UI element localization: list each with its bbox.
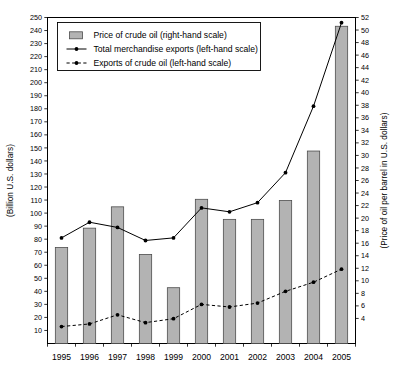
x-axis-tick-label: 1997	[108, 352, 127, 362]
bar	[223, 219, 235, 343]
data-point-marker	[172, 236, 176, 240]
data-point-marker	[312, 280, 316, 284]
y2-axis-tick-label: 52	[361, 13, 369, 22]
oil-price-exports-chart: 1020304050607080901001101201301401501601…	[0, 0, 397, 372]
y-axis-tick-label: 220	[30, 52, 42, 61]
bar	[55, 248, 67, 344]
y-axis-tick-label: 30	[34, 300, 42, 309]
chart-canvas: 1020304050607080901001101201301401501601…	[0, 0, 397, 372]
y2-axis-tick-label: 50	[361, 26, 369, 35]
legend-item-label: Exports of crude oil (left-hand scale)	[94, 58, 232, 68]
y-axis-tick-label: 130	[30, 170, 42, 179]
legend-solid-marker-icon	[75, 47, 79, 51]
y-axis-tick-label: 100	[30, 209, 42, 218]
y2-axis-tick-label: 18	[361, 226, 369, 235]
bar	[335, 26, 347, 343]
y-axis-tick-label: 50	[34, 274, 42, 283]
y-axis-tick-label: 250	[30, 13, 42, 22]
x-axis-tick-label: 2002	[248, 352, 267, 362]
bar	[167, 288, 179, 344]
data-point-marker	[200, 206, 204, 210]
data-point-marker	[116, 313, 120, 317]
x-axis-tick-label: 2000	[192, 352, 211, 362]
data-point-marker	[284, 289, 288, 293]
y2-axis-tick-label: 6	[361, 301, 365, 310]
bar	[195, 199, 207, 343]
data-point-marker	[228, 305, 232, 309]
y2-axis-tick-label: 44	[361, 63, 369, 72]
x-axis-tick-label: 1995	[52, 352, 71, 362]
y-axis-tick-label: 80	[34, 235, 42, 244]
y2-axis-tick-label: 16	[361, 239, 369, 248]
data-point-marker	[200, 302, 204, 306]
y2-axis-tick-label: 38	[361, 101, 369, 110]
y-axis-tick-label: 210	[30, 65, 42, 74]
y2-axis-tick-label: 46	[361, 51, 369, 60]
y2-axis-tick-label: 32	[361, 138, 369, 147]
x-axis-tick-label: 1996	[80, 352, 99, 362]
data-point-marker	[88, 220, 92, 224]
data-point-marker	[172, 317, 176, 321]
x-axis-tick-label: 1999	[164, 352, 183, 362]
y2-axis-tick-label: 26	[361, 176, 369, 185]
bar	[307, 151, 319, 343]
data-point-marker	[144, 321, 148, 325]
y2-axis-tick-label: 14	[361, 251, 369, 260]
bar	[279, 201, 291, 344]
y-axis-tick-label: 90	[34, 222, 42, 231]
y2-axis-tick-label: 48	[361, 38, 369, 47]
y2-axis-tick-label: 4	[361, 314, 365, 323]
bar	[83, 228, 95, 343]
x-axis-tick-label: 2005	[332, 352, 351, 362]
y-axis-tick-label: 20	[34, 313, 42, 322]
y2-axis-tick-label: 20	[361, 214, 369, 223]
data-point-marker	[284, 171, 288, 175]
y2-axis-tick-label: 34	[361, 126, 369, 135]
y2-axis-title: (Price of oil per barrel in U.S. dollars…	[379, 112, 389, 248]
y-axis-tick-label: 70	[34, 248, 42, 257]
data-point-marker	[256, 301, 260, 305]
y2-axis-tick-label: 12	[361, 264, 369, 273]
bar	[139, 254, 151, 343]
y2-axis-tick-label: 8	[361, 289, 365, 298]
y-axis-tick-label: 240	[30, 26, 42, 35]
data-point-marker	[60, 236, 64, 240]
y-axis-tick-label: 200	[30, 78, 42, 87]
y-axis-tick-label: 230	[30, 39, 42, 48]
x-axis-tick-label: 2003	[276, 352, 295, 362]
y-axis-tick-label: 180	[30, 104, 42, 113]
y-axis-tick-label: 60	[34, 261, 42, 270]
legend-bar-swatch-icon	[70, 32, 83, 39]
data-point-marker	[340, 267, 344, 271]
y2-axis-tick-label: 24	[361, 189, 369, 198]
data-point-marker	[256, 201, 260, 205]
data-point-marker	[228, 210, 232, 214]
data-point-marker	[144, 239, 148, 243]
x-axis-tick-label: 2001	[220, 352, 239, 362]
y-axis-tick-label: 190	[30, 91, 42, 100]
data-point-marker	[116, 226, 120, 230]
y2-axis-tick-label: 42	[361, 76, 369, 85]
y-axis-title: (Billion U.S. dollars)	[5, 144, 15, 217]
y-axis-tick-label: 140	[30, 157, 42, 166]
y-axis-tick-label: 170	[30, 117, 42, 126]
x-axis-tick-label: 1998	[136, 352, 155, 362]
x-axis-tick-label: 2004	[304, 352, 323, 362]
y-axis-tick-label: 120	[30, 183, 42, 192]
data-point-marker	[88, 322, 92, 326]
data-point-marker	[312, 104, 316, 108]
legend-dashed-marker-icon	[75, 61, 79, 65]
data-point-marker	[340, 21, 344, 25]
y2-axis-tick-label: 30	[361, 151, 369, 160]
y2-axis-tick-label: 36	[361, 113, 369, 122]
y2-axis-tick-label: 40	[361, 88, 369, 97]
y-axis-tick-label: 40	[34, 287, 42, 296]
y-axis-tick-label: 10	[34, 326, 42, 335]
data-point-marker	[60, 325, 64, 329]
y2-axis-tick-label: 10	[361, 276, 369, 285]
y2-axis-tick-label: 28	[361, 164, 369, 173]
y2-axis-tick-label: 22	[361, 201, 369, 210]
legend-item-label: Price of crude oil (right-hand scale)	[94, 30, 227, 40]
legend-item-label: Total merchandise exports (left-hand sca…	[94, 44, 258, 54]
y-axis-tick-label: 160	[30, 130, 42, 139]
